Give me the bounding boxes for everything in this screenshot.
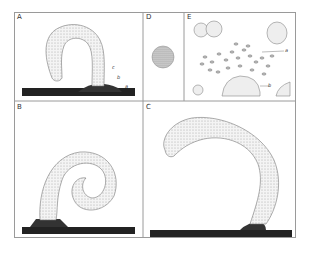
annotation-e-b: b	[268, 82, 271, 88]
panel-label-d: D	[146, 13, 151, 21]
panel-d-cell	[152, 46, 174, 68]
panel-label-a: A	[17, 13, 22, 21]
panel-a-drawing	[22, 25, 135, 96]
panel-label-c: C	[146, 103, 151, 111]
annotation-a-a: a	[125, 83, 128, 89]
figure-illustration	[0, 0, 314, 253]
annotation-a-c: c	[112, 64, 115, 70]
panel-c-drawing	[150, 117, 292, 237]
panel-e-drawing	[193, 21, 290, 96]
panel-label-e: E	[187, 13, 191, 21]
annotation-e-a: a	[285, 47, 288, 53]
annotation-a-b: b	[117, 74, 120, 80]
panel-label-b: B	[17, 103, 22, 111]
panel-b-drawing	[22, 152, 135, 234]
